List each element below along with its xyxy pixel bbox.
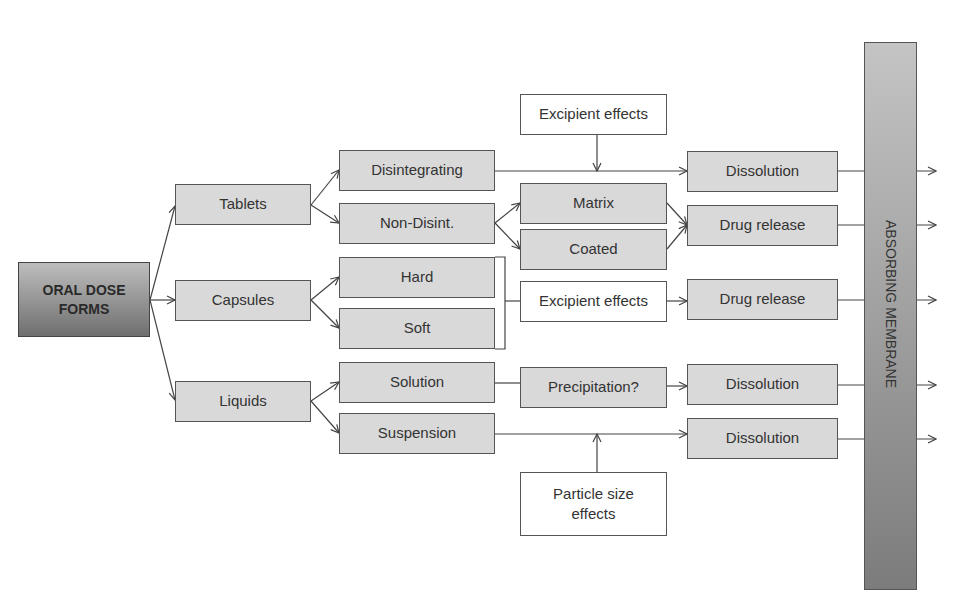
absorbing-membrane: ABSORBING MEMBRANE [864, 42, 917, 590]
node-hard: Hard [339, 257, 495, 298]
node-excipient-effects-mid: Excipient effects [520, 281, 667, 322]
node-suspension: Suspension [339, 413, 495, 454]
node-dissolution-1: Dissolution [687, 151, 838, 192]
node-liquids: Liquids [175, 381, 311, 422]
node-drug-release-2: Drug release [687, 279, 838, 320]
node-dissolution-2: Dissolution [687, 364, 838, 405]
node-solution: Solution [339, 362, 495, 403]
node-drug-release-1: Drug release [687, 205, 838, 246]
node-matrix: Matrix [520, 183, 667, 224]
node-particle-size-effects: Particle size effects [520, 472, 667, 536]
node-disintegrating: Disintegrating [339, 150, 495, 191]
node-dissolution-3: Dissolution [687, 418, 838, 459]
node-oral-dose-forms: ORAL DOSE FORMS [18, 262, 150, 337]
node-precipitation: Precipitation? [520, 367, 667, 408]
membrane-label: ABSORBING MEMBRANE [883, 220, 899, 388]
node-non-disint: Non-Disint. [339, 203, 495, 244]
node-excipient-effects-top: Excipient effects [520, 94, 667, 135]
node-coated: Coated [520, 229, 667, 270]
node-tablets: Tablets [175, 184, 311, 225]
node-capsules: Capsules [175, 280, 311, 321]
node-soft: Soft [339, 308, 495, 349]
oral-dose-forms-diagram: ABSORBING MEMBRANE ORAL DOSE FORMS Table… [0, 0, 958, 596]
